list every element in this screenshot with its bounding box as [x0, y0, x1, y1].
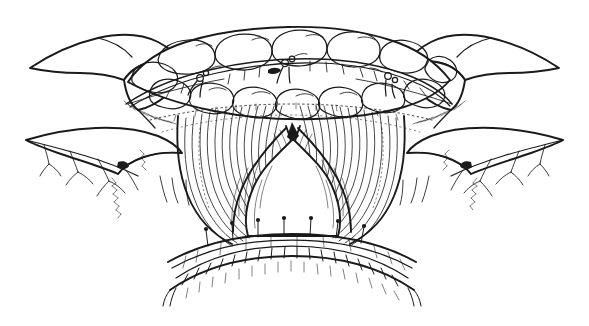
figure-root	[0, 0, 589, 326]
illustration-canvas	[0, 0, 589, 326]
